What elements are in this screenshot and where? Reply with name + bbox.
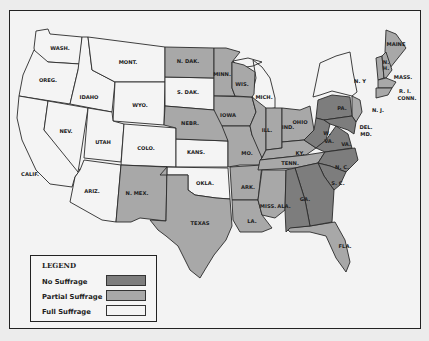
svg-text:NEBR.: NEBR.: [181, 120, 199, 126]
state-ri-conn: [376, 88, 392, 98]
svg-text:S. DAK.: S. DAK.: [177, 89, 199, 95]
svg-text:NEV.: NEV.: [59, 128, 72, 134]
svg-text:LA.: LA.: [247, 218, 256, 224]
svg-text:COLO.: COLO.: [137, 145, 155, 151]
svg-text:H.: H.: [383, 65, 389, 71]
legend-label-full-suffrage: Full Suffrage: [42, 308, 91, 316]
svg-text:ARIZ.: ARIZ.: [84, 188, 100, 194]
svg-text:N. C.: N. C.: [335, 164, 349, 170]
svg-text:MISS.: MISS.: [260, 203, 276, 209]
svg-text:TENN.: TENN.: [281, 160, 299, 166]
svg-text:ALA.: ALA.: [277, 203, 290, 209]
svg-text:MINN.: MINN.: [213, 71, 231, 77]
svg-text:R. I.: R. I.: [399, 88, 411, 94]
svg-text:MO.: MO.: [241, 150, 252, 156]
svg-text:MICH.: MICH.: [255, 94, 272, 100]
svg-text:DEL.: DEL.: [359, 124, 372, 130]
svg-text:IOWA: IOWA: [220, 112, 236, 118]
svg-text:ILL.: ILL.: [262, 127, 273, 133]
legend: LEGEND No Suffrage Partial Suffrage Full…: [30, 255, 157, 322]
svg-text:MASS.: MASS.: [394, 74, 412, 80]
svg-text:ARK.: ARK.: [241, 184, 255, 190]
svg-text:OKLA.: OKLA.: [196, 180, 214, 186]
state-iowa: [214, 96, 256, 126]
svg-text:FLA.: FLA.: [339, 243, 352, 249]
legend-swatch-full-suffrage: [106, 305, 146, 316]
svg-text:IDAHO: IDAHO: [79, 94, 99, 100]
svg-text:WIS.: WIS.: [235, 81, 248, 87]
svg-text:VA.: VA.: [341, 141, 351, 147]
svg-text:CALIF.: CALIF.: [21, 171, 39, 177]
svg-text:N. J.: N. J.: [372, 107, 384, 114]
svg-text:MONT.: MONT.: [119, 59, 138, 65]
state-ny: [313, 52, 357, 97]
legend-swatch-partial-suffrage: [106, 290, 146, 301]
svg-text:MAINE: MAINE: [387, 41, 406, 47]
state-ark: [230, 165, 262, 200]
svg-text:GA.: GA.: [300, 196, 310, 202]
legend-label-no-suffrage: No Suffrage: [42, 278, 87, 286]
state-miss: [258, 170, 286, 218]
svg-text:WYO.: WYO.: [132, 102, 148, 108]
svg-text:TEXAS: TEXAS: [191, 220, 210, 226]
svg-text:CONN.: CONN.: [398, 95, 417, 101]
svg-text:MD.: MD.: [360, 131, 371, 137]
svg-text:N. Y: N. Y: [354, 78, 366, 84]
svg-text:OREG.: OREG.: [39, 77, 57, 83]
svg-text:OHIO: OHIO: [292, 119, 308, 125]
svg-text:UTAH: UTAH: [95, 139, 111, 145]
svg-text:VA.: VA.: [324, 138, 334, 144]
svg-text:KY.: KY.: [296, 150, 305, 156]
svg-text:KANS.: KANS.: [187, 149, 205, 155]
legend-label-partial-suffrage: Partial Suffrage: [42, 293, 102, 301]
legend-title: LEGEND: [42, 261, 76, 270]
svg-text:WASH.: WASH.: [50, 45, 70, 51]
svg-text:S. C.: S. C.: [331, 180, 344, 186]
svg-text:PA.: PA.: [337, 105, 346, 111]
legend-swatch-no-suffrage: [106, 275, 146, 286]
svg-text:W.: W.: [323, 130, 330, 136]
svg-text:N. MEX.: N. MEX.: [126, 190, 149, 196]
state-wis: [232, 62, 255, 97]
svg-text:N. DAK.: N. DAK.: [177, 58, 199, 64]
